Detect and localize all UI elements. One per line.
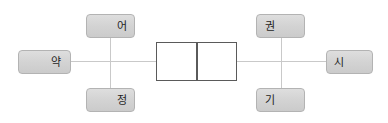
connector-left-vertical <box>110 37 111 89</box>
node-top-right-label: 권 <box>265 21 275 32</box>
node-right[interactable]: 시 <box>326 50 373 74</box>
diagram-canvas: 약 어 정 권 기 시 <box>0 0 388 123</box>
connector-right-vertical <box>281 37 282 89</box>
center-cell-right[interactable] <box>198 43 236 80</box>
node-left[interactable]: 약 <box>18 50 71 74</box>
node-right-label: 시 <box>334 57 344 68</box>
node-top-left-label: 어 <box>117 21 127 32</box>
connector-right-horizontal <box>236 61 328 62</box>
center-cell-left[interactable] <box>157 43 195 80</box>
node-top-left[interactable]: 어 <box>86 14 135 38</box>
node-bottom-right-label: 기 <box>265 95 275 106</box>
node-bottom-right[interactable]: 기 <box>256 88 305 112</box>
node-left-label: 약 <box>51 57 61 68</box>
node-bottom-left[interactable]: 정 <box>86 88 135 112</box>
node-bottom-left-label: 정 <box>117 95 127 106</box>
connector-left-horizontal <box>60 61 158 62</box>
node-top-right[interactable]: 권 <box>256 14 305 38</box>
